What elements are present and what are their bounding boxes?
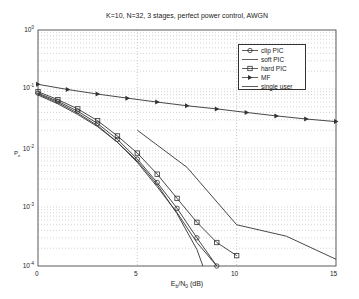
triangle-marker-icon bbox=[245, 110, 250, 115]
y-tick-1e0: 100 bbox=[4, 25, 34, 33]
x-tick-0: 0 bbox=[35, 270, 39, 277]
series-line bbox=[38, 93, 217, 266]
triangle-marker-icon bbox=[96, 92, 101, 97]
legend-item-single-user: single user bbox=[239, 82, 305, 91]
series-line bbox=[38, 95, 203, 266]
square-marker-icon bbox=[242, 64, 258, 73]
x-tick-15: 15 bbox=[330, 270, 337, 277]
legend-item-mf: MF bbox=[239, 73, 305, 82]
triangle-marker-icon bbox=[125, 96, 129, 101]
triangle-marker-icon bbox=[215, 106, 220, 111]
y-tick-1e-1: 10-1 bbox=[4, 83, 34, 91]
legend-item-soft-pic: soft PIC bbox=[239, 55, 305, 64]
legend-item-hard-pic: hard PIC bbox=[239, 64, 305, 73]
triangle-marker-icon bbox=[274, 113, 279, 118]
y-axis-label: Pe bbox=[14, 150, 20, 158]
legend: clip PIC soft PIC hard PIC MF single use… bbox=[238, 44, 306, 90]
circle-marker-icon bbox=[242, 46, 258, 55]
series-line bbox=[38, 94, 217, 266]
x-axis-label: Eb/N0 (dB) bbox=[38, 280, 336, 289]
y-tick-1e-3: 10-3 bbox=[4, 202, 34, 210]
legend-item-clip-pic: clip PIC bbox=[239, 46, 305, 55]
triangle-marker-icon bbox=[155, 100, 160, 105]
y-tick-1e-4: 10-4 bbox=[4, 261, 34, 269]
triangle-marker-icon bbox=[66, 87, 71, 92]
line-icon bbox=[242, 82, 258, 91]
chart-title: K=10, N=32, 3 stages, perfect power cont… bbox=[38, 12, 336, 19]
x-tick-5: 5 bbox=[134, 270, 138, 277]
line-icon bbox=[242, 55, 258, 64]
triangle-marker-icon bbox=[185, 103, 190, 108]
triangle-marker-icon bbox=[242, 73, 258, 82]
x-tick-10: 10 bbox=[231, 270, 238, 277]
triangle-marker-icon bbox=[304, 117, 309, 122]
